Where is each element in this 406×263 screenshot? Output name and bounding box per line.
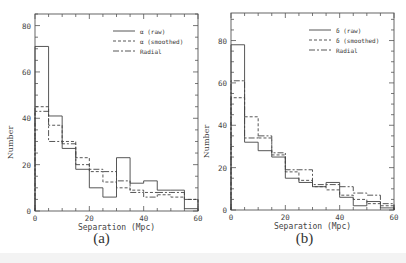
y-tick-label: 60 (218, 79, 228, 88)
y-tick-label: 0 (222, 206, 227, 215)
legend-label: δ (raw) (336, 27, 361, 34)
x-tick-label: 0 (33, 214, 38, 223)
legend-label: α (raw) (140, 28, 165, 35)
y-tick-label: 40 (218, 121, 228, 130)
histogram-series (231, 98, 394, 210)
legend-label: δ (smoothed) (336, 37, 379, 44)
x-tick-label: 40 (139, 214, 149, 223)
histogram-series (231, 81, 394, 210)
x-tick-label: 20 (85, 214, 95, 223)
y-tick-label: 80 (22, 22, 32, 31)
panel-b: 0204060020406080Separation (Mpc)Numberδ … (203, 0, 406, 263)
histogram-b: 0204060020406080Separation (Mpc)Numberδ … (203, 0, 406, 263)
caption-a: (a) (0, 230, 203, 247)
histogram-a: 0204060020406080Separation (Mpc)Numberα … (0, 0, 203, 263)
y-tick-label: 20 (22, 161, 32, 170)
y-tick-label: 80 (218, 37, 228, 46)
y-tick-label: 0 (26, 207, 31, 216)
x-tick-label: 60 (193, 214, 203, 223)
bottom-strip (0, 253, 406, 263)
legend-label: Radial (140, 48, 162, 55)
y-tick-label: 40 (22, 114, 32, 123)
legend-label: α (smoothed) (140, 38, 183, 45)
x-tick-label: 0 (229, 213, 234, 222)
x-tick-label: 20 (281, 213, 291, 222)
x-tick-label: 60 (389, 213, 399, 222)
legend-label: Radial (336, 47, 358, 54)
panel-a: 0204060020406080Separation (Mpc)Numberα … (0, 0, 203, 263)
y-axis-label: Number (203, 125, 211, 159)
y-tick-label: 20 (218, 164, 228, 173)
y-tick-label: 60 (22, 68, 32, 77)
y-axis-label: Number (6, 126, 15, 160)
x-tick-label: 40 (335, 213, 345, 222)
caption-b: (b) (203, 230, 406, 247)
